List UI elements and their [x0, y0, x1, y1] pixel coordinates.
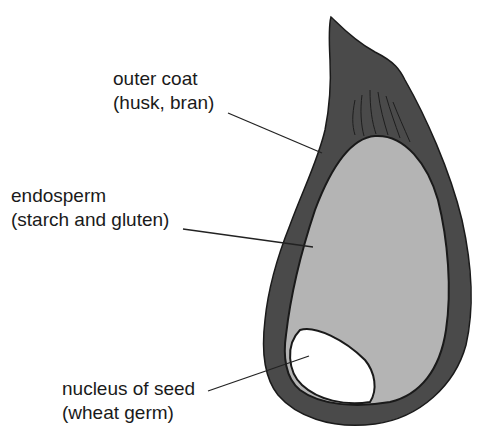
germ-label-line1: nucleus of seed — [62, 377, 195, 401]
germ-label-line2: (wheat germ) — [62, 401, 195, 425]
outer-coat-label-line1: outer coat — [113, 67, 214, 91]
endosperm-label-line1: endosperm — [11, 184, 169, 208]
germ-label: nucleus of seed (wheat germ) — [62, 377, 195, 425]
endosperm-label-line2: (starch and gluten) — [11, 208, 169, 232]
endosperm-label: endosperm (starch and gluten) — [11, 184, 169, 232]
outer-coat-label: outer coat (husk, bran) — [113, 67, 214, 115]
wheat-kernel-diagram: outer coat (husk, bran) endosperm (starc… — [0, 0, 481, 442]
outer-coat-label-line2: (husk, bran) — [113, 91, 214, 115]
outer-coat-leader-line — [228, 113, 322, 153]
